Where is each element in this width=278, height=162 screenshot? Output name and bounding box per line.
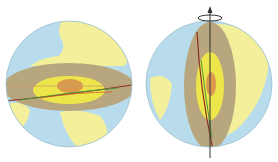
- axis-arrow-icon: [208, 6, 213, 13]
- right-globe: [146, 6, 272, 158]
- inner-core-section: [206, 72, 216, 96]
- left-globe: [3, 20, 135, 149]
- figure: [0, 0, 278, 162]
